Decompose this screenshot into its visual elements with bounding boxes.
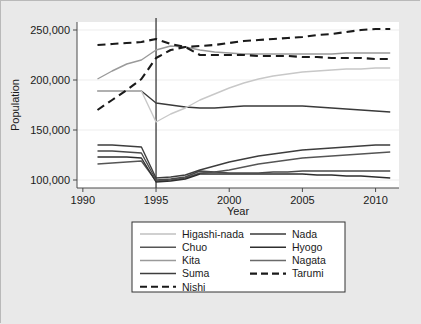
legend-label-chuo: Chuo: [182, 241, 207, 253]
legend-label-nishi: Nishi: [182, 281, 205, 293]
x-tick-label-4: 2010: [363, 194, 387, 206]
x-tick-label-1: 1995: [144, 194, 168, 206]
chart-canvas: 100,000150,000200,000250,000 19901995200…: [1, 1, 421, 324]
x-tick-label-0: 1990: [71, 194, 95, 206]
legend-label-tarumi: Tarumi: [292, 267, 324, 279]
legend-label-nagata: Nagata: [292, 254, 326, 266]
y-axis-title: Population: [9, 79, 21, 131]
population-line-chart: 100,000150,000200,000250,000 19901995200…: [1, 1, 421, 324]
x-axis-title: Year: [227, 205, 250, 217]
y-tick-label-3: 250,000: [30, 24, 70, 36]
x-tick-label-3: 2005: [290, 194, 314, 206]
plot-area-background: [77, 22, 399, 188]
chart-legend: Higashi-nadaChuoKitaSumaNishiNadaHyogoNa…: [132, 222, 345, 293]
legend-label-hyogo: Hyogo: [292, 241, 323, 253]
y-tick-label-0: 100,000: [30, 174, 70, 186]
legend-label-suma: Suma: [182, 267, 210, 279]
legend-label-kita: Kita: [182, 254, 200, 266]
y-tick-label-2: 200,000: [30, 74, 70, 86]
legend-label-higashi-nada: Higashi-nada: [182, 228, 244, 240]
y-tick-label-1: 150,000: [30, 124, 70, 136]
legend-label-nada: Nada: [292, 228, 317, 240]
